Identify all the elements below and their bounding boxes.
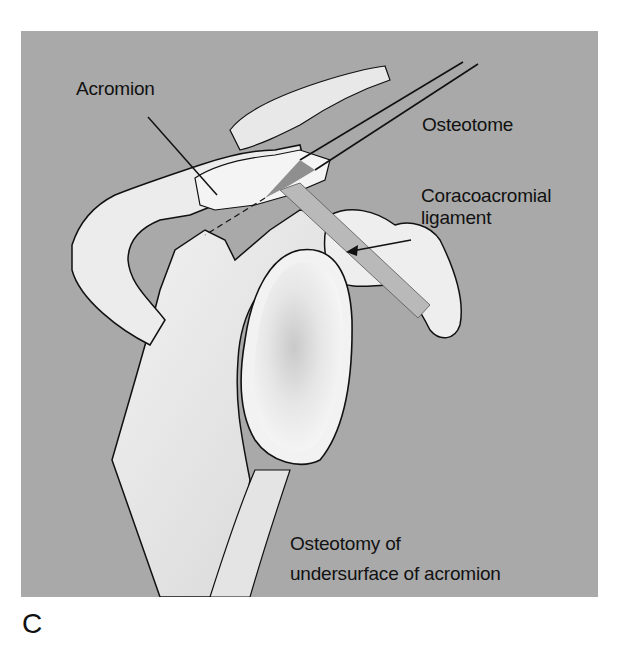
label-osteotomy-line1: Osteotomy of [290, 533, 401, 555]
label-coracoacromial-line1: Coracoacromial [421, 185, 551, 207]
label-osteotome: Osteotome [422, 114, 513, 136]
label-coracoacromial-line2: ligament [421, 207, 491, 229]
label-acromion: Acromion [76, 78, 155, 100]
panel-letter: C [22, 608, 42, 640]
label-osteotomy-line2: undersurface of acromion [290, 563, 501, 585]
